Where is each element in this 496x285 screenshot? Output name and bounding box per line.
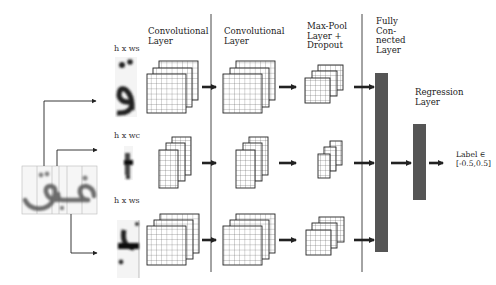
bottom-conv2-feature-maps — [223, 214, 275, 265]
input-word-image — [22, 166, 97, 214]
connector-to-middle-branch — [57, 150, 97, 166]
bottom-maxpool-feature-maps — [306, 217, 344, 255]
connector-to-top-branch — [44, 101, 96, 166]
middle-conv2-feature-maps — [236, 137, 268, 188]
connector-to-bottom-branch — [71, 214, 97, 253]
top-conv1-feature-maps — [147, 61, 198, 113]
bottom-conv1-feature-maps — [147, 214, 199, 265]
middle-conv1-feature-maps — [159, 137, 191, 188]
top-maxpool-feature-maps — [305, 65, 343, 103]
middle-maxpool-feature-maps — [318, 141, 342, 178]
top-branch-slice-image — [115, 57, 137, 117]
bottom-branch-slice-image — [117, 220, 139, 278]
middle-branch-slice-image — [124, 146, 133, 180]
top-conv2-feature-maps — [223, 61, 275, 113]
diagram-canvas — [0, 0, 496, 285]
regression-layer-bar — [413, 124, 426, 200]
fully-connected-layer-bar — [375, 73, 388, 252]
